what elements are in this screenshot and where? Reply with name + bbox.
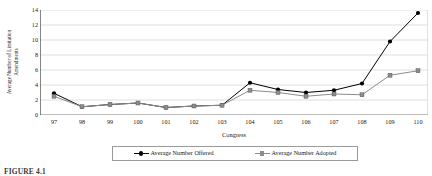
y-axis-tick-labels: 02468101214 (20, 0, 38, 176)
x-axis-tick-label: 97 (51, 119, 57, 125)
y-axis-tick-label: 0 (24, 112, 38, 118)
line-chart (40, 10, 428, 115)
y-axis-tick-label: 4 (24, 82, 38, 88)
plot-area (40, 10, 428, 115)
x-axis-tick-label: 106 (301, 119, 310, 125)
x-axis-tick-label: 98 (79, 119, 85, 125)
x-axis-tick-label: 110 (413, 119, 422, 125)
chart-legend: Average Number Offered Average Number Ad… (112, 146, 358, 161)
legend-marker-square-icon (255, 150, 270, 157)
x-axis-tick-label: 102 (189, 119, 198, 125)
x-axis-tick-label: 105 (273, 119, 282, 125)
data-point-offered (248, 81, 252, 85)
series-line-adopted (54, 71, 418, 108)
data-point-adopted (220, 103, 224, 107)
x-axis-tick-label: 104 (245, 119, 254, 125)
x-axis-tick-labels: 979899100101102103104105106107108109110 (40, 119, 428, 129)
data-point-adopted (108, 103, 112, 107)
legend-label-adopted: Average Number Adopted (272, 150, 337, 156)
data-point-offered (416, 11, 420, 15)
x-axis-title: Congress (40, 131, 428, 138)
legend-item-offered[interactable]: Average Number Offered (134, 150, 214, 157)
data-point-offered (332, 88, 336, 92)
figure-container: Average Number of Limitation Amendments … (0, 0, 432, 176)
data-point-adopted (248, 88, 252, 92)
data-point-offered (304, 90, 308, 94)
y-axis-tick-label: 6 (24, 67, 38, 73)
y-axis-title-line-1: Average Number of Limitation (6, 30, 13, 95)
x-axis-tick-label: 109 (385, 119, 394, 125)
data-point-adopted (164, 106, 168, 110)
data-point-adopted (304, 94, 308, 98)
x-axis-tick-label: 108 (357, 119, 366, 125)
y-axis-title-line-2: Amendments (13, 30, 20, 95)
y-axis-tick-label: 8 (24, 52, 38, 58)
data-point-adopted (136, 101, 140, 105)
legend-label-offered: Average Number Offered (151, 150, 214, 156)
data-point-adopted (360, 93, 364, 97)
data-point-adopted (192, 104, 196, 108)
data-point-adopted (276, 91, 280, 95)
data-point-offered (360, 81, 364, 85)
data-point-offered (388, 39, 392, 43)
y-axis-tick-label: 10 (24, 37, 38, 43)
x-axis-tick-label: 103 (217, 119, 226, 125)
x-axis-tick-label: 101 (161, 119, 170, 125)
data-point-adopted (52, 94, 56, 98)
legend-item-adopted[interactable]: Average Number Adopted (255, 150, 337, 157)
y-axis-tick-label: 12 (24, 22, 38, 28)
x-axis-tick-label: 100 (133, 119, 142, 125)
x-axis-tick-label: 107 (329, 119, 338, 125)
data-point-adopted (416, 69, 420, 73)
data-point-adopted (80, 105, 84, 109)
y-axis-tick-label: 14 (24, 7, 38, 13)
x-axis-tick-label: 99 (107, 119, 113, 125)
data-point-adopted (332, 92, 336, 96)
figure-caption: FIGURE 4.1 (4, 168, 46, 176)
data-point-adopted (388, 73, 392, 77)
y-axis-tick-label: 2 (24, 97, 38, 103)
legend-marker-circle-icon (134, 150, 149, 157)
